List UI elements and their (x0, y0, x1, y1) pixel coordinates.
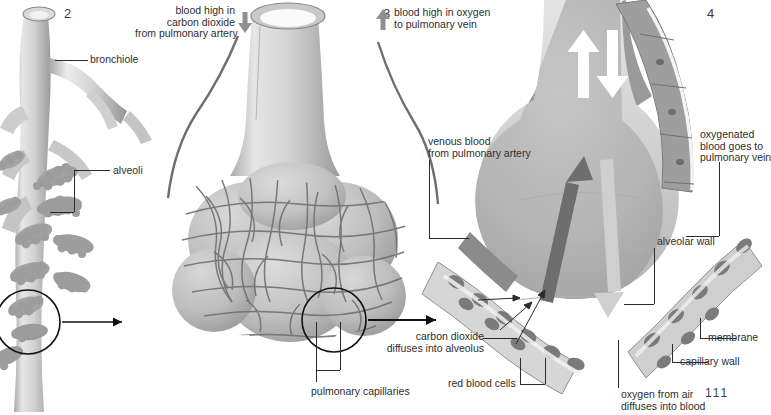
alveoli-clusters (0, 147, 95, 370)
leader-alveoli-horizontal (74, 170, 110, 171)
panel-number-4: 4 (707, 6, 714, 21)
leader-alveolar-wall (654, 248, 655, 304)
label-membrane: membrane (708, 332, 758, 344)
leader-pulm-cap-2 (340, 322, 341, 370)
label-venous-blood: venous blood from pulmonary artery (428, 136, 531, 159)
leader-oxygenated (719, 162, 720, 236)
label-pulmonary-capillaries: pulmonary capillaries (311, 386, 410, 398)
leader-alveoli-vertical (74, 170, 75, 212)
leader-co2 (483, 338, 517, 339)
arrow-o2-up (376, 8, 390, 30)
page-number: 111 (705, 386, 729, 400)
label-oxygenated-blood: oxygenated blood goes to pulmonary vein (700, 129, 771, 164)
leader-rbc-1 (520, 358, 521, 384)
label-alveoli: alveoli (113, 165, 143, 177)
panel-2-artwork (0, 7, 152, 412)
leader-alveoli-tick (50, 212, 74, 213)
leader-alveolar-wall-h (624, 304, 654, 305)
leader-capillary-wall-v (672, 344, 673, 362)
leader-venous-blood-h (429, 238, 469, 239)
label-alveolar-wall: alveolar wall (657, 236, 715, 248)
label-blood-high-o2: blood high in oxygen to pulmonary vein (394, 7, 490, 30)
leader-venous-blood (429, 160, 430, 238)
label-blood-high-co2: blood high in carbon dioxide from pulmon… (135, 5, 235, 40)
leader-rbc-h (520, 384, 545, 385)
leader-oxygen-diffuses (618, 340, 619, 388)
label-red-blood-cells: red blood cells (448, 378, 516, 390)
leader-rbc-2 (545, 358, 546, 384)
panel-number-2: 2 (64, 6, 71, 21)
label-capillary-wall: capillary wall (680, 356, 740, 368)
pulmonary-artery-vessel (168, 36, 238, 198)
leader-pulm-cap-1 (316, 322, 317, 382)
leader-pulm-cap-h (316, 370, 340, 371)
leader-membrane-v (700, 318, 701, 338)
arrow-co2-down (238, 12, 252, 34)
label-bronchiole: bronchiole (90, 54, 138, 66)
magnify-arrow-2 (62, 318, 122, 327)
label-oxygen-diffuses: oxygen from air diffuses into blood (621, 389, 705, 412)
leader-bronchiole (55, 60, 88, 61)
label-co2-diffuses: carbon dioxide diffuses into alveolus (366, 331, 484, 354)
panel-3-artwork (168, 3, 438, 352)
